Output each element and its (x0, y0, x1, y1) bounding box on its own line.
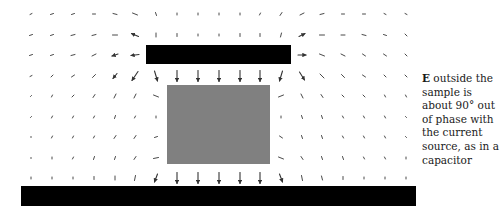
field-arrow (405, 14, 407, 15)
bottom-plate (21, 186, 416, 206)
field-arrow (342, 75, 345, 78)
field-arrow (260, 13, 261, 15)
field-arrow (30, 35, 33, 36)
field-arrow (300, 13, 304, 15)
top-plate (146, 45, 291, 64)
field-arrow (156, 13, 157, 16)
field-arrow (299, 34, 305, 37)
field-arrow (155, 71, 158, 81)
field-arrow (406, 95, 407, 97)
field-arrow (52, 136, 53, 138)
field-arrow (73, 116, 74, 118)
field-arrow (30, 76, 32, 77)
field-arrow (363, 95, 365, 97)
field-arrow (341, 54, 345, 56)
field-arrow (71, 55, 75, 56)
field-arrow (51, 55, 54, 56)
field-arrow (94, 136, 95, 138)
field-arrow (342, 95, 344, 97)
field-arrow (363, 54, 366, 56)
field-arrow (384, 75, 386, 77)
caption: E outside the sample is about 90° out of… (422, 72, 502, 167)
field-arrow (364, 136, 365, 138)
field-arrow (280, 71, 283, 81)
field-arrow (73, 136, 74, 138)
field-arrow (132, 34, 139, 37)
field-arrow (93, 75, 96, 78)
field-arrow (155, 137, 158, 138)
field-arrow (302, 176, 303, 181)
field-arrow (405, 54, 407, 56)
field-arrow (364, 157, 365, 159)
field-arrow (280, 174, 283, 182)
field-arrow (301, 94, 303, 98)
field-arrow (279, 95, 284, 97)
field-arrow (322, 157, 323, 160)
field-arrow (155, 174, 158, 182)
field-arrow (113, 14, 117, 15)
field-arrow (94, 116, 95, 118)
field-arrow (134, 157, 136, 160)
field-arrow (52, 95, 53, 97)
field-arrow (302, 136, 303, 139)
field-arrow (72, 14, 75, 15)
field-arrow (363, 75, 366, 77)
field-arrow (31, 117, 32, 118)
field-arrow (343, 136, 344, 138)
field-arrow (115, 116, 116, 119)
field-arrow (321, 95, 323, 98)
field-arrow (279, 157, 284, 159)
field-arrow (302, 116, 303, 119)
field-arrow (30, 14, 32, 15)
field-arrow (320, 14, 324, 15)
field-arrow (384, 14, 386, 15)
field-arrow (93, 95, 95, 98)
field-arrow (51, 75, 53, 77)
field-arrow (405, 34, 407, 36)
field-arrow (135, 116, 136, 118)
field-arrow (134, 136, 136, 139)
field-arrow (52, 116, 53, 118)
field-arrow (406, 137, 407, 138)
field-arrow (112, 54, 118, 56)
field-arrow (51, 35, 54, 36)
field-arrow (134, 94, 136, 98)
field-arrow (94, 157, 95, 160)
field-arrow (343, 157, 344, 160)
field-arrow (113, 74, 117, 79)
field-arrow (320, 74, 324, 78)
field-arrow (281, 33, 282, 37)
field-arrow (132, 72, 138, 81)
field-arrow (72, 95, 74, 97)
field-arrow (133, 13, 138, 15)
field-arrow (135, 176, 136, 181)
field-arrow (72, 75, 75, 77)
field-arrow (154, 158, 159, 159)
field-arrow (322, 136, 323, 139)
field-arrow (384, 54, 387, 56)
field-arrow (31, 96, 32, 97)
field-arrow (30, 55, 33, 56)
field-arrow (92, 54, 96, 56)
e-field-symbol: E (422, 72, 430, 84)
field-arrow (385, 157, 386, 159)
field-arrow (300, 72, 305, 80)
field-arrow (280, 13, 282, 16)
caption-text: outside the sample is about 90° out of p… (422, 72, 499, 166)
field-arrow (364, 116, 365, 118)
field-arrow (405, 75, 407, 77)
field-arrow (406, 117, 407, 118)
field-arrow (320, 54, 325, 56)
field-arrow (385, 116, 386, 118)
sample-block (167, 85, 270, 164)
field-arrow (384, 35, 387, 36)
field-arrow (301, 157, 303, 160)
field-arrow (51, 14, 54, 15)
field-arrow (73, 157, 74, 159)
field-arrow (343, 116, 344, 118)
field-arrow (322, 176, 323, 180)
field-arrow (385, 136, 386, 138)
field-arrow (114, 94, 116, 98)
field-arrow (92, 35, 96, 36)
field-arrow (131, 55, 139, 56)
